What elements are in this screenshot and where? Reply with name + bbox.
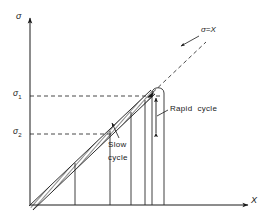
rapid-cycle-leader-line (157, 110, 168, 116)
hatched-envelope-band (29, 90, 155, 210)
stress-vs-x-diagram: σ X σ1 σ2 σ=X Slow cycle Rapid cycle (0, 0, 266, 219)
rapid-cycle-label: Rapid cycle (170, 105, 217, 113)
slow-cycle-label-line2: cycle (108, 154, 128, 162)
sigma1-subscript: 1 (18, 94, 21, 100)
band-fill (29, 90, 155, 210)
band-upper-edge (29, 90, 151, 206)
slow-cycle-label-line1: Slow (108, 141, 127, 149)
band-lower-edge (33, 94, 155, 210)
sigma2-subscript: 2 (18, 132, 21, 138)
sigma-equals-x-dashed-line (148, 42, 206, 97)
sigma-equals-x-leader-line (181, 36, 199, 46)
y-tick-label-sigma2: σ2 (13, 127, 21, 138)
x-axis-label: X (251, 196, 257, 205)
y-axis-label: σ (16, 12, 21, 21)
y-tick-label-sigma1: σ1 (13, 89, 21, 100)
rapid-cycle-group (152, 88, 168, 205)
plot-canvas (0, 0, 266, 219)
rapid-cycle-return-loop (152, 88, 164, 205)
sigma-equals-x-label: σ=X (201, 26, 216, 34)
